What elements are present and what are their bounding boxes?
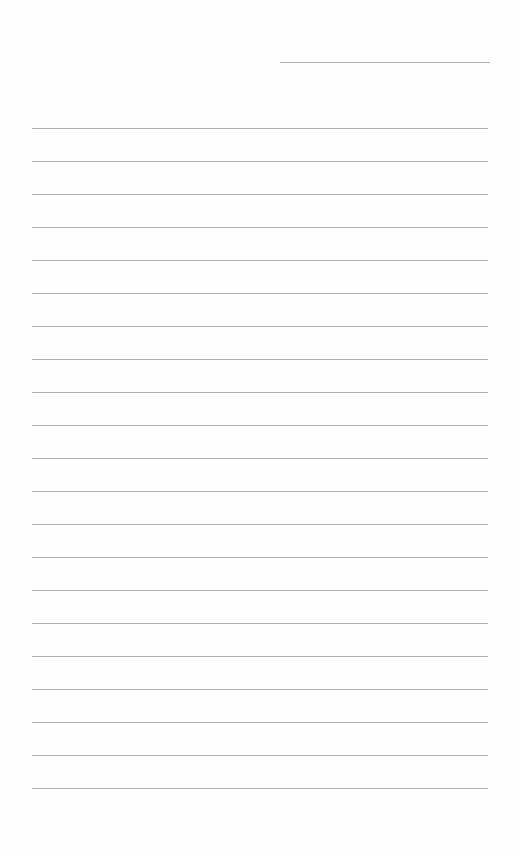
ruled-line [32,293,488,294]
ruled-line [32,623,488,624]
ruled-page [0,0,520,856]
ruled-line [32,326,488,327]
ruled-line [32,689,488,690]
ruled-line [32,359,488,360]
ruled-line [32,788,488,789]
ruled-line [32,656,488,657]
ruled-line [32,425,488,426]
header-signature-line [280,62,490,63]
ruled-line [32,557,488,558]
ruled-line [32,755,488,756]
ruled-line [32,491,488,492]
ruled-line [32,194,488,195]
ruled-line [32,260,488,261]
ruled-line [32,524,488,525]
ruled-line [32,722,488,723]
ruled-line [32,128,488,129]
ruled-line [32,161,488,162]
ruled-line [32,392,488,393]
ruled-line [32,458,488,459]
ruled-line [32,590,488,591]
ruled-line [32,227,488,228]
